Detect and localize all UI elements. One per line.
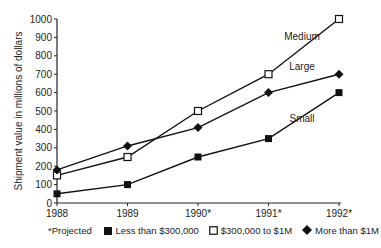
y-tick-label: 200 xyxy=(35,161,52,172)
y-tick-label: 1000 xyxy=(30,14,53,25)
filled-diamond-icon xyxy=(302,225,312,235)
y-tick-label: 0 xyxy=(46,198,52,209)
y-tick-label: 500 xyxy=(35,106,52,117)
data-point xyxy=(265,71,272,78)
data-point xyxy=(123,141,132,150)
data-point xyxy=(265,135,272,142)
x-tick-label: 1989 xyxy=(116,208,139,219)
x-tick-label: 1992* xyxy=(326,208,352,219)
data-point xyxy=(336,89,343,96)
open-square-icon xyxy=(209,226,218,235)
y-tick-label: 100 xyxy=(35,179,52,190)
data-point xyxy=(264,88,273,97)
series-label-small: Small xyxy=(289,113,314,124)
data-point xyxy=(194,123,203,132)
x-tick-label: 1988 xyxy=(46,208,69,219)
y-tick-label: 800 xyxy=(35,50,52,61)
data-point xyxy=(335,70,344,79)
filled-square-icon xyxy=(104,227,112,235)
x-tick-label: 1991* xyxy=(255,208,281,219)
series-line-medium xyxy=(57,19,339,175)
y-tick-label: 600 xyxy=(35,87,52,98)
y-tick-label: 400 xyxy=(35,124,52,135)
y-tick-label: 900 xyxy=(35,32,52,43)
y-axis-label: Shipment value in millions of dollars xyxy=(13,32,24,191)
legend-item-large: More than $1M xyxy=(315,225,379,236)
series-label-large: Large xyxy=(289,61,315,72)
series-label-medium: Medium xyxy=(284,31,320,42)
series-lines xyxy=(53,16,344,198)
x-tick-label: 1990* xyxy=(185,208,211,219)
y-tick-label: 300 xyxy=(35,142,52,153)
legend-item-medium: $300,000 to $1M xyxy=(221,225,292,236)
data-point xyxy=(124,154,131,161)
legend-footnote: *Projected xyxy=(48,225,92,236)
data-point xyxy=(195,154,202,161)
series-annotations: MediumLargeSmall xyxy=(284,31,320,124)
data-point xyxy=(54,190,61,197)
y-tick-label: 700 xyxy=(35,69,52,80)
data-point xyxy=(336,16,343,23)
legend-item-small: Less than $300,000 xyxy=(115,225,198,236)
legend: *Projected Less than $300,000 $300,000 t… xyxy=(48,225,381,236)
data-point xyxy=(195,108,202,115)
data-point xyxy=(124,181,131,188)
